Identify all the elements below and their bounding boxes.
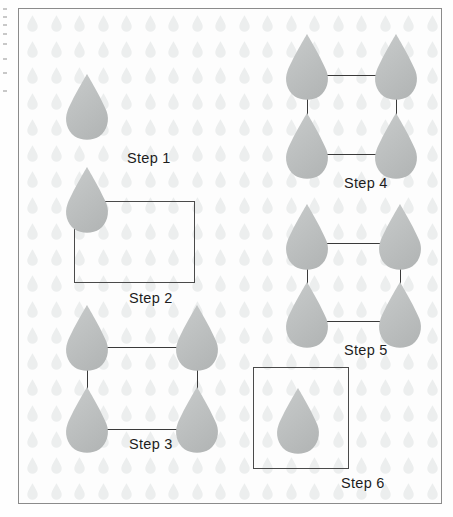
margin-speck [3, 16, 7, 18]
margin-speck [3, 24, 7, 26]
step-label-6: Step 6 [341, 475, 385, 491]
margin-speck [3, 58, 7, 60]
margin-speck [3, 90, 7, 92]
scan-margin-artifacts [0, 0, 14, 517]
margin-speck [3, 43, 7, 45]
margin-speck [3, 72, 7, 74]
step-sequence-layer: Step 1Step 2Step 3Step 4Step 5Step 6 [19, 9, 441, 503]
illustration-frame: Step 1Step 2Step 3Step 4Step 5Step 6 [18, 8, 442, 504]
step-group-6: Step 6 [19, 9, 441, 503]
water-droplet-icon [272, 387, 324, 455]
margin-speck [3, 33, 7, 35]
scanned-page: Step 1Step 2Step 3Step 4Step 5Step 6 [0, 0, 453, 517]
margin-speck [3, 8, 7, 10]
